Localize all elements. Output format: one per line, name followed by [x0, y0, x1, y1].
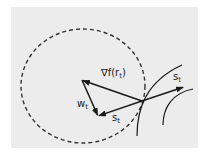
gradient-arrow	[83, 81, 142, 102]
trust-region-dashed-circle	[21, 29, 145, 143]
s-lower-arrow	[99, 101, 142, 116]
s-lower-label: st	[112, 113, 120, 125]
gradient-label-main: ∇f(r	[101, 67, 119, 78]
s-upper-arrow	[142, 87, 183, 101]
gradient-label: ∇f(rt)	[101, 68, 126, 80]
s-upper-label: st	[173, 72, 181, 84]
gradient-label-close: )	[122, 67, 126, 78]
w-label: wt	[77, 99, 88, 111]
w-label-main: w	[77, 98, 85, 109]
s-lower-label-sub: t	[117, 117, 120, 125]
s-upper-label-sub: t	[178, 76, 181, 84]
w-label-sub: t	[85, 103, 88, 111]
level-curve-outer	[163, 89, 193, 125]
